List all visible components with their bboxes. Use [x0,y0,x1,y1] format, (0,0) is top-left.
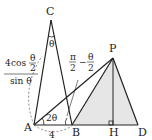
geometry-diagram: C A B P H D 4 cos θ 2 sin θ θ 2θ π 2 − θ… [0,0,152,140]
angle-b-top-left: π [70,52,76,62]
angle-b-bot-left: 2 [70,63,76,73]
angle-c-label: θ [49,39,54,49]
pointer-line-b [67,80,78,116]
shaded-triangle-bpd [72,58,138,125]
angle-arc-c [48,36,55,37]
label-p: P [109,42,117,55]
angle-arc-b [65,118,67,125]
segment-ac [34,20,51,125]
ab-length-label: 4 [49,130,55,140]
label-h: H [109,126,119,139]
ac-num-fn: cos [11,58,26,68]
ac-den: sin θ [10,76,32,86]
angle-a-label: 2θ [46,113,57,123]
label-b: B [72,126,80,139]
label-d: D [138,126,147,139]
angle-b-minus: − [79,57,87,67]
ac-num-arg-bot: 2 [30,63,36,73]
angle-b-top-right: θ [88,52,93,62]
label-c: C [46,5,54,18]
angle-b-bot-right: 2 [88,63,94,73]
angle-arc-a [42,118,44,125]
label-a: A [23,121,33,134]
ac-num-arg-top: θ [30,53,35,63]
